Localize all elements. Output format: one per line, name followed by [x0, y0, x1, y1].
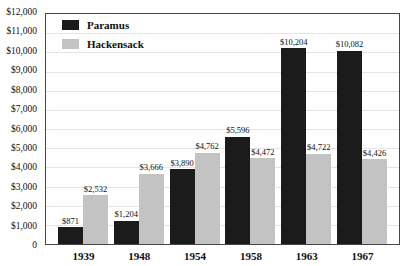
x-tick-label: 1954 [170, 250, 220, 262]
bar-paramus-1948: $1,204 [114, 221, 139, 244]
legend-item-paramus: Paramus [62, 19, 144, 31]
bar-hackensack-1958: $4,472 [250, 158, 275, 244]
bar-hackensack-1967: $4,426 [362, 159, 387, 244]
bar-paramus-1963: $10,204 [281, 48, 306, 244]
y-tick-label: $10,000 [6, 47, 37, 57]
y-tick-label: $4,000 [11, 164, 37, 174]
y-tick-label: $5,000 [11, 144, 37, 154]
bar-value-label: $4,426 [363, 149, 386, 158]
y-tick-label: $6,000 [11, 125, 37, 135]
x-tick-label: 1948 [114, 250, 164, 262]
x-tick-label: 1958 [226, 250, 276, 262]
y-axis: $12,000$11,000$10,000$9,000$8,000$7,000$… [0, 13, 41, 246]
y-tick-label: $12,000 [6, 8, 37, 18]
bar-value-label: $2,532 [84, 185, 107, 194]
bar-value-label: $10,204 [280, 38, 308, 47]
x-tick-label: 1967 [337, 250, 387, 262]
bar-value-label: $3,890 [170, 159, 193, 168]
bar-hackensack-1939: $2,532 [83, 195, 108, 244]
bar-paramus-1939: $871 [58, 227, 83, 244]
bar-paramus-1954: $3,890 [170, 169, 195, 244]
legend-label: Hackensack [87, 38, 144, 50]
bar-group-1954: $3,890$4,762 [170, 14, 220, 244]
plot-area: $871$2,532$1,204$3,666$3,890$4,762$5,596… [45, 13, 400, 245]
legend-swatch [62, 20, 79, 30]
y-tick-label: $11,000 [6, 28, 37, 38]
y-tick-label: $7,000 [11, 105, 37, 115]
y-tick-label: $3,000 [11, 183, 37, 193]
bar-value-label: $1,204 [115, 210, 138, 219]
bar-value-label: $5,596 [226, 126, 249, 135]
bar-value-label: $4,722 [307, 143, 330, 152]
legend: ParamusHackensack [62, 19, 144, 50]
bar-group-1958: $5,596$4,472 [225, 14, 275, 244]
bar-value-label: $4,762 [195, 142, 218, 151]
legend-label: Paramus [87, 19, 129, 31]
x-axis: 193919481954195819631967 [47, 250, 400, 262]
bar-paramus-1958: $5,596 [225, 137, 250, 244]
bar-value-label: $3,666 [140, 163, 163, 172]
bar-paramus-1967: $10,082 [337, 51, 362, 244]
x-tick-label: 1963 [282, 250, 332, 262]
bar-group-1967: $10,082$4,426 [337, 14, 387, 244]
bar-hackensack-1954: $4,762 [195, 153, 220, 244]
bar-chart: $12,000$11,000$10,000$9,000$8,000$7,000$… [0, 0, 419, 266]
y-tick-label: $8,000 [11, 86, 37, 96]
y-tick-label: $2,000 [11, 202, 37, 212]
legend-item-hackensack: Hackensack [62, 38, 144, 50]
y-tick-label: $9,000 [11, 67, 37, 77]
bar-value-label: $4,472 [251, 148, 274, 157]
bar-value-label: $10,082 [336, 40, 364, 49]
bar-value-label: $871 [62, 217, 79, 226]
legend-swatch [62, 39, 79, 49]
bar-hackensack-1963: $4,722 [306, 154, 331, 245]
bar-group-1963: $10,204$4,722 [281, 14, 331, 244]
y-tick-label: $1,000 [11, 222, 37, 232]
y-tick-label: 0 [32, 241, 37, 251]
bar-hackensack-1948: $3,666 [139, 174, 164, 244]
x-tick-label: 1939 [59, 250, 109, 262]
